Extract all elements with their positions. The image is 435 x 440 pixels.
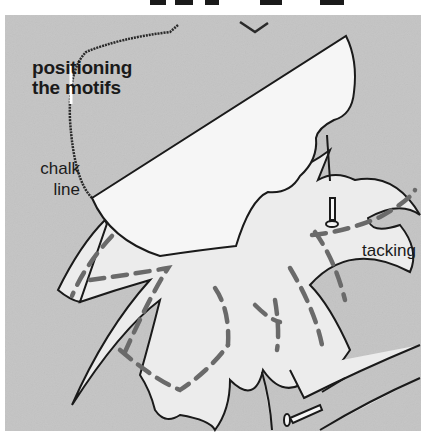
cropped-heading-glyphs [150,0,344,5]
chalk-line-label: chalk line [30,158,80,200]
chalk-label-line-2: line [30,179,80,200]
title-label: positioning the motifs [32,58,132,98]
illustration-panel: positioning the motifs chalk line tackin… [0,0,435,440]
title-line-2: the motifs [32,78,132,98]
tacking-label: tacking [362,241,416,261]
title-line-1: positioning [32,58,132,78]
chalk-label-line-1: chalk [30,158,80,179]
